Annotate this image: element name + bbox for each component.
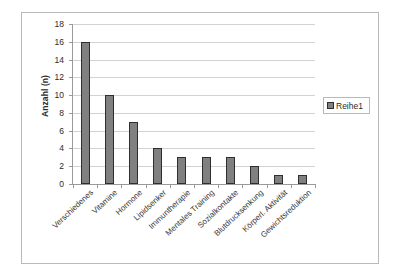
y-tick-4: 4: [69, 148, 73, 149]
x-tick-5: [194, 184, 195, 188]
bar-0: [81, 42, 90, 184]
x-tick-0: [73, 184, 74, 188]
chart-frame: Anzahl (n) 024681012141618 Verschiedenes…: [21, 12, 379, 264]
x-axis-label-0: Verschiedenes: [51, 188, 96, 230]
gridline-16: [73, 42, 315, 43]
y-axis-line: [72, 24, 73, 184]
x-tick-1: [97, 184, 98, 188]
y-tick-10: 10: [69, 95, 73, 96]
bar-8: [274, 175, 283, 184]
gridline-14: [73, 60, 315, 61]
y-axis-title: Anzahl (n): [40, 51, 50, 141]
y-tick-12: 12: [69, 77, 73, 78]
y-tick-label-8: 8: [59, 108, 64, 118]
x-tick-3: [146, 184, 147, 188]
bar-7: [250, 166, 259, 184]
x-tick-7: [242, 184, 243, 188]
chart-legend: Reihe1: [323, 97, 370, 114]
y-tick-8: 8: [69, 113, 73, 114]
y-tick-label-16: 16: [55, 37, 64, 47]
y-tick-label-2: 2: [59, 161, 64, 171]
x-tick-8: [267, 184, 268, 188]
y-tick-label-4: 4: [59, 143, 64, 153]
x-tick-6: [218, 184, 219, 188]
x-tick-10: [315, 184, 316, 188]
legend-swatch-reihe1: [327, 102, 334, 109]
y-tick-2: 2: [69, 166, 73, 167]
bar-6: [226, 157, 235, 184]
legend-label-reihe1: Reihe1: [336, 101, 363, 111]
y-tick-16: 16: [69, 42, 73, 43]
y-tick-label-0: 0: [59, 179, 64, 189]
bar-5: [202, 157, 211, 184]
y-tick-label-12: 12: [55, 72, 64, 82]
bar-9: [298, 175, 307, 184]
y-tick-label-14: 14: [55, 55, 64, 65]
y-tick-6: 6: [69, 131, 73, 132]
plot-area: 024681012141618 VerschiedenesVitamineHor…: [73, 24, 315, 184]
x-tick-9: [291, 184, 292, 188]
y-tick-14: 14: [69, 60, 73, 61]
y-tick-18: 18: [69, 24, 73, 25]
bar-2: [129, 122, 138, 184]
bar-1: [105, 95, 114, 184]
y-tick-label-10: 10: [55, 90, 64, 100]
x-tick-4: [170, 184, 171, 188]
bar-3: [153, 148, 162, 184]
gridline-18: [73, 24, 315, 25]
y-tick-label-18: 18: [55, 19, 64, 29]
bar-4: [177, 157, 186, 184]
x-tick-2: [121, 184, 122, 188]
gridline-12: [73, 77, 315, 78]
y-tick-label-6: 6: [59, 126, 64, 136]
